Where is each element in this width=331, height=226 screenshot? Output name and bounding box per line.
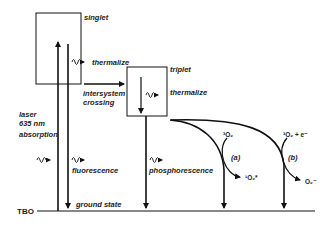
pathway-b-label: (b) [288,153,298,162]
isc-label-2: crossing [83,98,115,107]
pathway-a-label: (a) [231,153,241,162]
fluorescence-wave-icon [72,158,84,163]
laser-label-2: 635 nm [19,119,45,128]
isc-label-1: intersystem [83,89,125,98]
phosphorescence-label: phosphorescence [148,166,213,175]
laser-wave-icon [37,158,50,163]
thermalize-triplet-label: thermalize [170,88,207,97]
pathway-b-reactant: ³O₂ + e⁻ [283,131,308,138]
triplet-label: triplet [170,65,191,74]
pathway-a-curve [170,120,224,208]
thermalize-wave-icon [72,60,84,65]
pathway-a-product: ¹O₂* [245,174,258,181]
triplet-box [127,67,167,116]
jablonski-diagram: singlet triplet TBO ground state thermal… [0,0,331,226]
thermalize-singlet-label: thermalize [92,58,129,67]
phosphorescence-wave-icon [150,158,162,163]
pathway-b-product: O₂⁻ [305,178,317,185]
ground-state-label: ground state [75,200,121,209]
tbo-label: TBO [17,207,34,216]
thermalize-triplet-wave-icon [146,93,158,98]
laser-label-1: laser [19,110,38,119]
singlet-label: singlet [84,13,109,22]
pathway-a-reactant: ³O₂ [223,131,233,138]
absorption-label: absorption [19,130,58,139]
fluorescence-label: fluorescence [72,166,118,175]
